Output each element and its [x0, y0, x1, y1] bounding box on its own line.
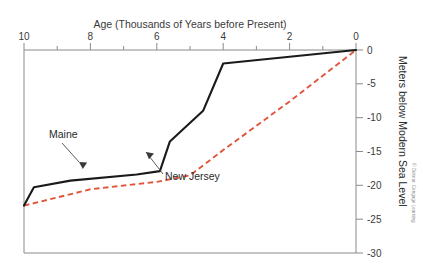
x-tick-label: 4 — [220, 31, 226, 42]
y-tick-label: 0 — [367, 45, 373, 56]
series-label-maine: Maine — [49, 128, 78, 140]
x-axis-tick-labels: 10 8 6 4 2 0 — [18, 31, 359, 42]
x-axis-title: Age (Thousands of Years before Present) — [93, 18, 286, 30]
sea-level-chart-figure: Age (Thousands of Years before Present) … — [0, 0, 423, 268]
y-tick-label: -10 — [367, 112, 382, 123]
copyright-credit: © Delmar, Cengage Learning — [411, 163, 417, 223]
y-tick-label: -30 — [367, 248, 382, 259]
leader-arrowhead-maine — [77, 158, 88, 169]
y-tick-label: -25 — [367, 214, 382, 225]
plot-frame — [24, 50, 356, 253]
x-axis-ticks — [24, 43, 356, 50]
x-tick-label: 10 — [18, 31, 30, 42]
y-tick-label: -5 — [367, 78, 376, 89]
leader-arrowhead-new-jersey — [144, 149, 155, 160]
y-tick-label: -15 — [367, 146, 382, 157]
annotation-new-jersey: New Jersey — [144, 149, 220, 182]
x-tick-label: 6 — [154, 31, 160, 42]
annotation-maine: Maine — [49, 128, 88, 169]
y-tick-label: -20 — [367, 180, 382, 191]
series-label-new-jersey: New Jersey — [165, 170, 221, 182]
leader-line-maine — [62, 143, 79, 162]
x-tick-label: 2 — [287, 31, 293, 42]
y-axis-title: Meters below Modern Sea Level — [397, 56, 409, 207]
x-tick-label: 8 — [88, 31, 94, 42]
y-axis-ticks — [356, 50, 363, 253]
x-tick-label: 0 — [353, 31, 359, 42]
chart-canvas: Age (Thousands of Years before Present) … — [0, 0, 423, 268]
y-axis-tick-labels: 0 -5 -10 -15 -20 -25 -30 — [367, 45, 382, 259]
